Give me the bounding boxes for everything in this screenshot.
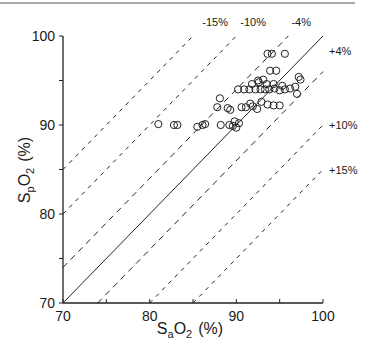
x-tick-label: 70 [55,308,71,324]
x-axis-title: SaO2(%) [157,320,223,340]
data-point [217,121,224,128]
reference-line [63,36,288,267]
data-point [216,95,223,102]
svg-text:SpO2(%): SpO2(%) [16,137,36,203]
y-tick-label: 80 [39,206,55,222]
reference-line [98,72,323,303]
reference-line [150,125,323,303]
x-tick-label: 100 [311,308,335,324]
x-tick-label: 80 [142,308,158,324]
svg-text:SaO2(%): SaO2(%) [157,320,223,340]
data-point [155,121,162,128]
reference-line [193,170,323,304]
data-points [155,50,304,131]
reference-line-label: -10% [240,16,266,28]
reference-line [63,36,323,303]
data-point [214,104,221,111]
reference-line-label: +10% [329,119,358,131]
data-point [293,90,300,97]
reference-line-label: +15% [329,164,358,176]
y-tick-label: 90 [39,117,55,133]
reference-line-label: +4% [329,45,352,57]
x-tick-label: 90 [229,308,245,324]
data-point [281,50,288,57]
reference-line [63,36,193,170]
reference-line-label: -4% [291,16,311,28]
scatter-chart: -15%-10%-4%+4%+10%+15% 70809010070809010… [0,0,365,354]
y-axis-title: SpO2(%) [16,137,36,203]
reference-line-labels: -15%-10%-4%+4%+10%+15% [202,16,357,176]
reference-line-label: -15% [202,16,228,28]
y-tick-label: 100 [32,28,56,44]
data-point [268,50,275,57]
reference-lines [63,36,323,303]
axes: 708090100708090100 [32,28,335,324]
y-tick-label: 70 [39,295,55,311]
